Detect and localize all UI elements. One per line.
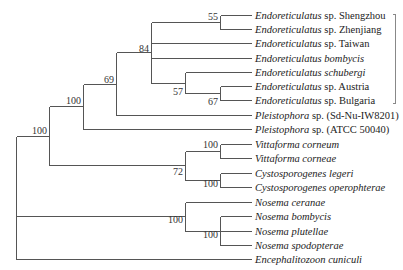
taxon-label: Cystosporogenes legeri [255, 168, 354, 179]
taxon-label: Pleistophora sp. (ATCC 50040) [254, 124, 390, 136]
taxon-label: Endoreticulatus sp. Shengzhou [254, 10, 386, 21]
taxon-label: Pleistophora sp. (Sd-Nu-IW8201) [254, 110, 399, 122]
bootstrap-67: 67 [208, 96, 218, 107]
bootstrap-100-cystosporogenes: 100 [203, 178, 218, 189]
clade-bracket [393, 15, 396, 104]
taxon-label: Nosema plutellae [254, 226, 329, 237]
bootstrap-57: 57 [173, 86, 183, 97]
bootstrap-values: 55 67 57 84 69 100 100 100 72 100 100 10… [32, 11, 218, 240]
bootstrap-55: 55 [208, 11, 218, 22]
taxon-label: Nosema spodopterae [254, 240, 344, 251]
taxon-label: Encephalitozoon cuniculi [254, 254, 362, 265]
taxon-label: Endoreticulatus sp. Taiwan [254, 38, 370, 49]
tree-branches [17, 16, 253, 260]
taxon-label: Nosema ceranae [254, 197, 326, 208]
bootstrap-100-endo-pleisto: 100 [66, 95, 81, 106]
bootstrap-84: 84 [139, 43, 149, 54]
taxon-label: Endoreticulatus sp. Austria [254, 81, 370, 92]
bootstrap-69: 69 [104, 74, 114, 85]
taxon-label: Endoreticulatus sp. Zhenjiang [254, 24, 382, 35]
taxon-label: Vittaforma corneum [255, 139, 340, 150]
bootstrap-100-nosema-inner: 100 [203, 229, 218, 240]
taxon-labels: Endoreticulatus sp. Shengzhou Endoreticu… [254, 10, 399, 265]
taxon-label: Vittaforma corneae [255, 153, 337, 164]
bootstrap-100-nosema: 100 [168, 214, 183, 225]
bootstrap-100-upper: 100 [32, 125, 47, 136]
bootstrap-100-vittaforma: 100 [203, 139, 218, 150]
taxon-label: Nosema bombycis [254, 211, 331, 222]
taxon-label: Cystosporogenes operophterae [255, 182, 386, 193]
phylogenetic-tree: 55 67 57 84 69 100 100 100 72 100 100 10… [0, 0, 403, 270]
taxon-label: Endoreticulatus sp. Bulgaria [254, 95, 375, 106]
taxon-label: Endoreticulatus schubergi [254, 67, 365, 78]
bootstrap-72: 72 [173, 166, 183, 177]
taxon-label: Endoreticulatus bombycis [254, 53, 364, 64]
